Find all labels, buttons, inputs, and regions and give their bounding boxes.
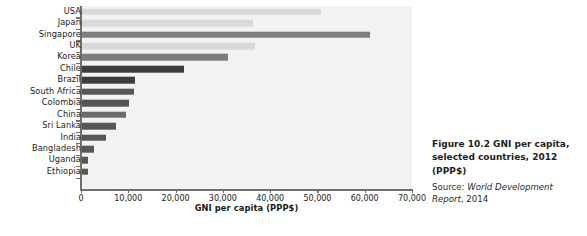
bar: [82, 54, 228, 61]
bar: [82, 100, 129, 107]
bar: [82, 8, 321, 15]
category-label: USA: [64, 7, 81, 16]
x-axis-tick: [365, 189, 366, 193]
bar: [82, 31, 370, 38]
bar-row: Uganda: [0, 155, 420, 166]
x-axis-tick: [223, 189, 224, 193]
bar-row: UK: [0, 40, 420, 51]
bar: [82, 88, 134, 95]
source-prefix: Source:: [432, 182, 467, 192]
caption-title: Figure 10.2 GNI per capita, selected cou…: [432, 138, 580, 178]
x-axis-tick-label: 40,000: [256, 194, 284, 203]
x-axis-tick-label: 50,000: [303, 194, 331, 203]
bar: [82, 157, 89, 164]
bar-row: Brazil: [0, 75, 420, 86]
category-label: Sri Lanka: [42, 121, 81, 130]
bar: [82, 169, 88, 176]
category-label: India: [60, 133, 81, 142]
category-label: Colombia: [42, 99, 81, 108]
figure-root: USAJapanSingaporeUKKoreaChileBrazilSouth…: [0, 0, 587, 236]
bar-row: Korea: [0, 52, 420, 63]
category-label: UK: [69, 41, 81, 50]
bar-row: Colombia: [0, 98, 420, 109]
bar-row: Japan: [0, 17, 420, 28]
bar: [82, 20, 254, 27]
x-axis-tick-label: 20,000: [162, 194, 190, 203]
x-axis-tick-label: 70,000: [398, 194, 426, 203]
category-label: Chile: [60, 64, 81, 73]
y-axis-tick: [76, 178, 81, 179]
bar: [82, 111, 127, 118]
category-label: Uganda: [49, 156, 81, 165]
bar: [82, 123, 117, 130]
x-axis-tick-label: 10,000: [114, 194, 142, 203]
category-label: Brazil: [58, 76, 81, 85]
x-axis-tick-label: 30,000: [209, 194, 237, 203]
category-label: Singapore: [39, 30, 81, 39]
bar: [82, 77, 135, 84]
bar-row: USA: [0, 6, 420, 17]
x-axis-tick: [270, 189, 271, 193]
category-label: Korea: [57, 53, 81, 62]
bar: [82, 146, 94, 153]
bar-row: China: [0, 109, 420, 120]
bar: [82, 66, 184, 73]
source-year: , 2014: [461, 194, 488, 204]
bar-chart: USAJapanSingaporeUKKoreaChileBrazilSouth…: [0, 0, 420, 236]
category-label: Ethiopia: [47, 167, 81, 176]
category-label: Japan: [58, 18, 81, 27]
bar-row: Ethiopia: [0, 166, 420, 177]
category-label: China: [57, 110, 81, 119]
bar: [82, 134, 107, 141]
x-axis-tick: [412, 189, 413, 193]
bar-row: India: [0, 132, 420, 143]
bar-row: Chile: [0, 63, 420, 74]
x-axis-tick: [81, 189, 82, 193]
bar-row: Sri Lanka: [0, 120, 420, 131]
category-label: South Africa: [30, 87, 81, 96]
bar: [82, 43, 255, 50]
x-axis-tick: [176, 189, 177, 193]
bar-row: Singapore: [0, 29, 420, 40]
x-axis-tick-label: 60,000: [351, 194, 379, 203]
bar-row: South Africa: [0, 86, 420, 97]
x-axis-tick-label: 0: [78, 194, 83, 203]
bar-row: Bangladesh: [0, 143, 420, 154]
category-label: Bangladesh: [32, 144, 81, 153]
caption-source: Source: World Development Report, 2014: [432, 181, 580, 205]
figure-caption: Figure 10.2 GNI per capita, selected cou…: [432, 138, 580, 206]
x-axis-title: GNI per capita (PPP$): [81, 203, 412, 213]
x-axis-tick: [128, 189, 129, 193]
bar-rows: USAJapanSingaporeUKKoreaChileBrazilSouth…: [0, 6, 420, 189]
x-axis-tick: [317, 189, 318, 193]
